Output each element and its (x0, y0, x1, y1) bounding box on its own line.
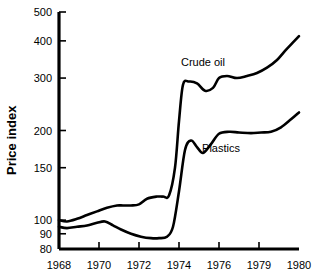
x-tick-label-1974: 1974 (167, 259, 191, 271)
x-tick-label-1979: 1979 (247, 259, 271, 271)
x-tick-label-1968: 1968 (47, 259, 71, 271)
y-tick-label-90: 90 (40, 228, 52, 240)
series-label-plastics: Plastics (202, 142, 240, 154)
chart-canvas: 5004003002001501009080 19681970197219741… (0, 0, 320, 279)
y-axis-group: 5004003002001501009080 (34, 6, 66, 255)
y-axis-tick-labels: 5004003002001501009080 (34, 6, 52, 255)
x-tick-label-1970: 1970 (87, 259, 111, 271)
y-tick-label-80: 80 (40, 243, 52, 255)
y-tick-label-500: 500 (34, 6, 52, 18)
series-annotations-group: Crude oilPlastics (181, 56, 240, 154)
y-tick-label-150: 150 (34, 162, 52, 174)
x-tick-label-1976: 1976 (207, 259, 231, 271)
x-axis-tick-labels: 1968197019721974197619791980 (47, 259, 311, 271)
y-tick-label-400: 400 (34, 35, 52, 47)
y-tick-label-300: 300 (34, 72, 52, 84)
y-tick-label-200: 200 (34, 125, 52, 137)
series-label-crude-oil: Crude oil (181, 56, 225, 68)
y-tick-label-100: 100 (34, 214, 52, 226)
x-tick-label-1972: 1972 (127, 259, 151, 271)
x-tick-label-1980: 1980 (287, 259, 311, 271)
series-lines-group (59, 36, 299, 238)
price-index-chart: 5004003002001501009080 19681970197219741… (0, 0, 320, 279)
y-axis-title: Price index (4, 105, 19, 175)
x-axis-group: 1968197019721974197619791980 (47, 242, 311, 271)
